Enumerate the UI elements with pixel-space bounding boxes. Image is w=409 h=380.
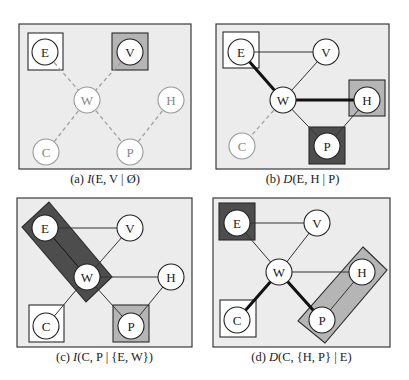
node-w: W: [266, 259, 292, 285]
caption-d-args: (C, {H, P} | E): [278, 350, 352, 364]
svg-text:C: C: [42, 145, 51, 160]
svg-text:V: V: [125, 45, 135, 60]
node-v: V: [117, 215, 143, 241]
panel-d: E V W H C P: [213, 198, 390, 347]
caption-a-args: (E, V | Ø): [91, 172, 140, 186]
panel-a: E V W H C P: [19, 24, 191, 169]
svg-text:W: W: [277, 93, 290, 108]
node-h: H: [158, 264, 184, 290]
node-h: H: [354, 87, 380, 113]
svg-text:P: P: [127, 319, 134, 334]
caption-b: (b) D(E, H | P): [216, 172, 389, 187]
node-e: E: [32, 215, 58, 241]
node-e: E: [228, 39, 254, 65]
node-h: H: [349, 259, 375, 285]
svg-text:H: H: [357, 265, 366, 280]
caption-c-args: (C, P | {E, W}): [77, 350, 153, 364]
node-c: C: [229, 133, 255, 159]
caption-b-args: (E, H | P): [292, 172, 339, 186]
caption-b-prefix: (b): [266, 172, 284, 186]
svg-text:H: H: [166, 93, 175, 108]
svg-text:P: P: [126, 145, 133, 160]
node-e: E: [224, 210, 250, 236]
svg-text:W: W: [273, 265, 286, 280]
node-c: C: [33, 139, 59, 165]
svg-text:V: V: [125, 221, 135, 236]
svg-text:H: H: [166, 270, 175, 285]
node-p: P: [117, 139, 143, 165]
node-v: V: [304, 210, 330, 236]
node-p: P: [309, 307, 335, 333]
caption-a: (a) I(E, V | Ø): [19, 172, 191, 187]
svg-text:V: V: [321, 45, 331, 60]
node-h: H: [158, 87, 184, 113]
svg-text:C: C: [42, 319, 51, 334]
svg-text:E: E: [41, 221, 49, 236]
node-w: W: [74, 264, 100, 290]
node-v: V: [313, 39, 339, 65]
node-v: V: [117, 39, 143, 65]
caption-d-func: D: [269, 350, 278, 364]
svg-text:P: P: [323, 139, 330, 154]
node-c: C: [224, 307, 250, 333]
svg-text:E: E: [41, 45, 49, 60]
svg-text:V: V: [312, 216, 322, 231]
caption-d: (d) D(C, {H, P} | E): [213, 350, 390, 365]
svg-text:W: W: [81, 93, 94, 108]
caption-c: (c) I(C, P | {E, W}): [17, 350, 192, 365]
node-c: C: [33, 313, 59, 339]
svg-text:E: E: [233, 216, 241, 231]
svg-text:C: C: [238, 139, 247, 154]
caption-c-prefix: (c): [56, 350, 73, 364]
svg-text:W: W: [81, 270, 94, 285]
node-p: P: [118, 313, 144, 339]
panel-b: E V W H C P: [216, 24, 389, 169]
caption-d-prefix: (d): [251, 350, 269, 364]
figure-canvas: E V W H C P E V W H C P: [0, 0, 409, 380]
node-w: W: [270, 87, 296, 113]
svg-text:H: H: [362, 93, 371, 108]
node-e: E: [32, 39, 58, 65]
panel-c: E V W H C P: [17, 198, 192, 347]
svg-text:C: C: [233, 313, 242, 328]
svg-text:P: P: [318, 313, 325, 328]
svg-text:E: E: [237, 45, 245, 60]
caption-a-prefix: (a): [70, 172, 87, 186]
node-p: P: [314, 133, 340, 159]
node-w: W: [74, 87, 100, 113]
